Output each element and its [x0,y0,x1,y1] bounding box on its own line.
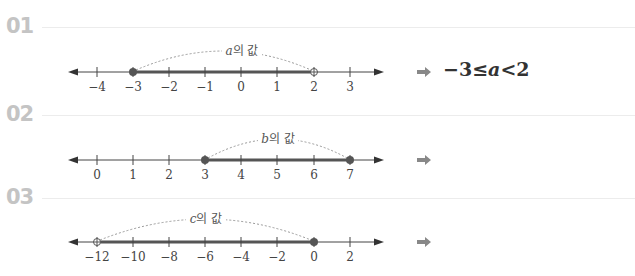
svg-text:a의 값: a의 값 [226,44,259,58]
answer-text: −3≤a<2 [443,58,530,80]
number-line: a의 값 −4 −3 −2 −1 0 1 2 3 [0,0,635,100]
arrow-right-icon [374,239,384,246]
svg-text:−2: −2 [268,250,286,264]
closed-dot-icon [129,68,137,76]
arrow-left-icon [68,69,78,76]
implies-arrow-icon [417,67,431,77]
svg-text:−6: −6 [196,250,214,264]
arrow-left-icon [68,239,78,246]
arrow-right-icon [374,69,384,76]
closed-dot-icon [201,156,209,164]
implies-arrow-icon [417,237,431,247]
svg-text:−8: −8 [160,250,178,264]
svg-text:2: 2 [346,250,354,264]
svg-text:−10: −10 [120,250,145,264]
svg-text:0: 0 [310,250,318,264]
number-line: c의 값 −12 −10 −8 −6 −4 −2 0 2 [0,170,635,270]
closed-dot-icon [346,156,354,164]
svg-text:−12: −12 [84,250,109,264]
arrow-left-icon [68,157,78,164]
arrow-right-icon [374,157,384,164]
svg-text:c의 값: c의 값 [190,212,223,226]
svg-text:−4: −4 [232,250,250,264]
implies-arrow-icon [417,155,431,165]
svg-text:b의 값: b의 값 [261,132,295,146]
closed-dot-icon [310,238,318,246]
